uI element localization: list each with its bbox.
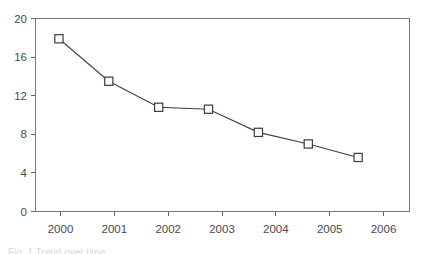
data-point-2000 — [55, 35, 63, 43]
chart-plot-area: 20 16 12 8 4 0 2000 2001 2002 2003 2004 … — [0, 0, 425, 254]
x-tick-label-2000: 2000 — [48, 223, 74, 235]
data-point-2001 — [105, 77, 113, 85]
y-tick-label-0: 0 — [21, 206, 27, 218]
data-point-2004 — [254, 128, 262, 136]
x-tick-label-2001: 2001 — [102, 223, 128, 235]
x-tick-label-2006: 2006 — [371, 223, 397, 235]
page-footer-artifact: Fig. 1 Trend over time — [8, 248, 308, 254]
data-point-2003 — [204, 105, 212, 113]
data-series — [55, 35, 362, 162]
y-tick-label-20: 20 — [14, 13, 27, 25]
y-tick-label-4: 4 — [21, 167, 28, 179]
y-axis: 20 16 12 8 4 0 — [14, 13, 35, 218]
series-line — [59, 39, 358, 158]
data-point-2002 — [155, 103, 163, 111]
x-tick-label-2002: 2002 — [155, 223, 181, 235]
x-tick-label-2004: 2004 — [263, 223, 289, 235]
x-tick-label-2005: 2005 — [317, 223, 343, 235]
y-tick-label-16: 16 — [14, 51, 27, 63]
data-point-2005 — [304, 140, 312, 148]
plot-frame — [36, 19, 410, 212]
line-chart: 20 16 12 8 4 0 2000 2001 2002 2003 2004 … — [0, 0, 425, 254]
y-tick-label-8: 8 — [21, 128, 27, 140]
y-tick-label-12: 12 — [14, 90, 27, 102]
x-tick-label-2003: 2003 — [209, 223, 235, 235]
data-point-2006 — [354, 153, 362, 161]
plot-border — [36, 19, 410, 212]
x-axis: 2000 2001 2002 2003 2004 2005 2006 — [48, 212, 397, 236]
series-markers — [55, 35, 362, 162]
